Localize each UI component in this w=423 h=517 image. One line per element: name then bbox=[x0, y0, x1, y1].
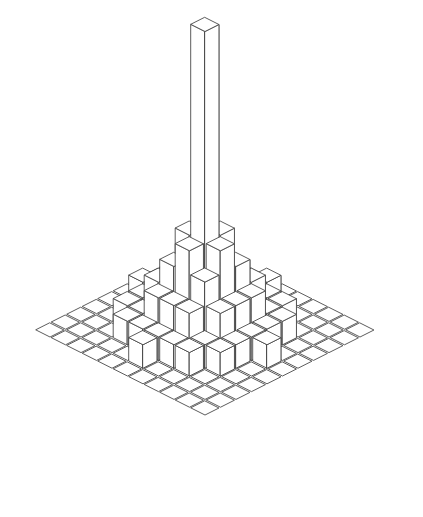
bar-column bbox=[129, 331, 157, 369]
plot-surface bbox=[36, 17, 374, 415]
bar-column bbox=[253, 331, 281, 369]
isometric-bar-chart bbox=[0, 0, 423, 517]
figure-root bbox=[0, 0, 423, 517]
bar-column bbox=[176, 338, 204, 376]
bar-column bbox=[207, 338, 235, 376]
